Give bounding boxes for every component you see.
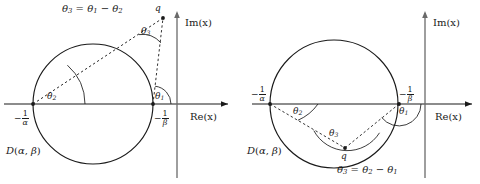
right-real-axis-label: Re(x) <box>435 112 462 122</box>
left-angle-theta1-label: θ1 <box>155 92 164 101</box>
left-point-alpha-marker <box>31 102 35 106</box>
right-point-beta-label: −1β <box>399 86 414 104</box>
left-disk-label: D(α, β) <box>6 146 41 156</box>
left-angle-theta3-label: θ3 <box>141 27 150 36</box>
left-point-beta-marker <box>151 102 155 106</box>
right-theta2-sub: 2 <box>298 109 302 116</box>
right-angle-theta3-label: θ3 <box>329 129 338 138</box>
left-real-axis-label: Re(x) <box>190 112 217 122</box>
right-segment-alpha-to-q <box>270 104 345 148</box>
right-formula-eq: = <box>351 164 359 175</box>
left-beta-sign: − <box>154 113 162 123</box>
left-alpha-den: α <box>22 119 29 127</box>
right-point-alpha-label: −1α <box>251 86 266 104</box>
left-formula-t2-sub: 2 <box>118 7 122 15</box>
left-point-beta-label: −1β <box>154 110 169 128</box>
right-theta1-sub: 1 <box>404 109 408 116</box>
left-disk-close: ) <box>37 145 41 156</box>
right-point-q-marker <box>343 146 347 150</box>
right-beta-sign: − <box>399 89 407 99</box>
left-theta1-sub: 1 <box>160 94 164 101</box>
right-theta3-sub: 3 <box>334 131 338 138</box>
right-angle-theta1-label: θ1 <box>399 107 408 116</box>
right-alpha-sign: − <box>251 89 259 99</box>
left-point-q-label: q <box>155 4 161 13</box>
right-disk-close: ) <box>278 145 282 156</box>
left-theta3-sub: 3 <box>146 29 150 36</box>
left-alpha-sign: − <box>14 113 22 123</box>
right-real-axis-arrow <box>465 101 472 107</box>
left-imaginary-axis-label: Im(x) <box>185 18 212 28</box>
left-real-axis-arrow <box>221 101 228 107</box>
left-formula-minus: − <box>101 3 109 14</box>
right-disk-label: D(α, β) <box>247 146 282 156</box>
left-formula-eq: = <box>76 3 84 14</box>
right-beta-den: β <box>407 95 414 103</box>
left-theta2-sub: 2 <box>52 94 56 101</box>
right-disk-comma: , <box>266 145 269 156</box>
right-formula-t2-sub: 1 <box>393 168 397 176</box>
left-angle-theta2-label: θ2 <box>47 92 56 101</box>
left-point-alpha-label: −1α <box>14 110 29 128</box>
right-panel-graphics <box>252 11 472 178</box>
right-formula: θ3 = θ2 − θ1 <box>337 165 398 176</box>
right-formula-minus: − <box>376 164 384 175</box>
right-imaginary-axis-arrow <box>422 11 428 18</box>
right-angle-theta2-label: θ2 <box>293 107 302 116</box>
left-point-q-marker <box>161 16 165 20</box>
right-imaginary-axis-label: Im(x) <box>433 18 460 28</box>
left-imaginary-axis-arrow <box>174 11 180 18</box>
figure-container: θ3 = θ1 − θ2 q θ3 θ1 θ2 Im(x) Re(x) −1α … <box>0 0 480 184</box>
right-alpha-den: α <box>259 95 266 103</box>
left-beta-den: β <box>162 119 169 127</box>
left-formula: θ3 = θ1 − θ2 <box>62 4 123 15</box>
right-point-q-label: q <box>341 152 347 161</box>
left-disk-comma: , <box>25 145 28 156</box>
right-point-alpha-marker <box>268 102 272 106</box>
